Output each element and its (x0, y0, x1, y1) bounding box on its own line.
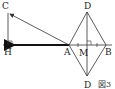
geometry-diagram: C H A M B D D 図3 (0, 0, 115, 89)
label-d-top: D (84, 1, 91, 11)
vector-ac (10, 14, 69, 45)
label-c: C (2, 1, 9, 11)
label-m: M (79, 48, 88, 58)
figure-caption: 図3 (98, 80, 111, 89)
right-angle-m (87, 41, 91, 45)
label-b: B (105, 47, 112, 57)
right-angle-h (8, 41, 12, 45)
rhombus-adbd (69, 12, 106, 76)
label-d-bottom: D (84, 80, 91, 89)
label-h: H (4, 47, 12, 57)
label-a: A (63, 47, 71, 57)
